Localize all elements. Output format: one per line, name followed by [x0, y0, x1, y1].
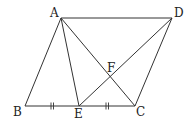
segment-ac [61, 18, 135, 106]
parallelogram-diagram: A D B E C F [0, 0, 194, 120]
label-f: F [107, 61, 115, 75]
label-a: A [49, 6, 59, 20]
segment-cd [135, 18, 172, 106]
label-c: C [136, 105, 145, 119]
segment-ae [61, 18, 79, 106]
segment-ed [79, 18, 172, 106]
segment-ab [25, 18, 61, 106]
label-d: D [174, 6, 184, 20]
label-b: B [13, 105, 22, 119]
label-e: E [74, 107, 83, 120]
